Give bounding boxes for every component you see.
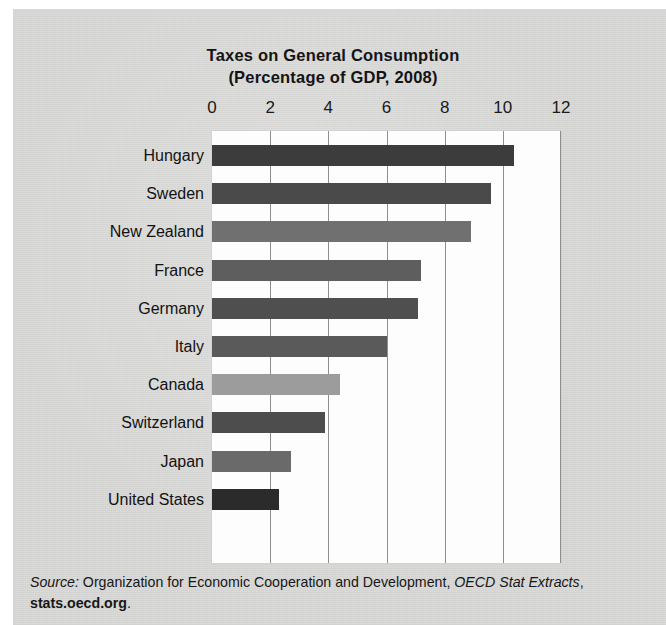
category-label-france: France xyxy=(20,260,204,281)
bar-italy xyxy=(212,336,387,357)
bar-germany xyxy=(212,298,418,319)
x-tick-label-10: 10 xyxy=(483,98,523,118)
bar-hungary xyxy=(212,145,514,166)
category-label-canada: Canada xyxy=(20,374,204,395)
source-period: . xyxy=(127,595,131,611)
bar-chart: 024681012 HungarySwedenNew ZealandFrance… xyxy=(0,0,666,625)
x-tick-label-12: 12 xyxy=(541,98,581,118)
x-tick-label-2: 2 xyxy=(250,98,290,118)
x-tick-label-6: 6 xyxy=(367,98,407,118)
bar-france xyxy=(212,260,421,281)
category-label-new-zealand: New Zealand xyxy=(20,221,204,242)
plot-area xyxy=(212,131,561,563)
x-tick-label-0: 0 xyxy=(192,98,232,118)
gridline-10 xyxy=(503,131,504,563)
source-note: Source: Organization for Economic Cooper… xyxy=(30,572,636,614)
category-label-italy: Italy xyxy=(20,336,204,357)
source-separator: , xyxy=(580,574,584,590)
category-label-germany: Germany xyxy=(20,298,204,319)
bar-japan xyxy=(212,451,291,472)
plot-right-border xyxy=(560,131,561,563)
bar-switzerland xyxy=(212,412,325,433)
source-body: Organization for Economic Cooperation an… xyxy=(79,574,454,590)
category-label-japan: Japan xyxy=(20,451,204,472)
source-publication: OECD Stat Extracts xyxy=(454,574,579,590)
category-label-switzerland: Switzerland xyxy=(20,412,204,433)
source-label: Source: xyxy=(30,574,79,590)
category-label-united-states: United States xyxy=(20,489,204,510)
x-tick-label-8: 8 xyxy=(425,98,465,118)
x-tick-label-4: 4 xyxy=(308,98,348,118)
bar-united-states xyxy=(212,489,279,510)
category-label-hungary: Hungary xyxy=(20,145,204,166)
bar-canada xyxy=(212,374,340,395)
bar-new-zealand xyxy=(212,221,471,242)
source-url: stats.oecd.org xyxy=(30,595,127,611)
bar-sweden xyxy=(212,183,491,204)
scanned-page: Taxes on General Consumption (Percentage… xyxy=(0,0,666,625)
category-label-sweden: Sweden xyxy=(20,183,204,204)
